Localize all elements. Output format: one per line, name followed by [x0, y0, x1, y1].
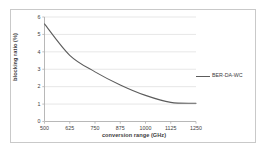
x-tick-label-500: 500 — [34, 125, 56, 131]
chart-figure: blocking ratio (%) conversion range (GHz… — [0, 0, 268, 154]
y-tick-label-2: 2 — [31, 83, 41, 89]
y-axis-title: blocking ratio (%) — [12, 12, 18, 102]
y-tick-label-5: 5 — [31, 31, 41, 37]
legend-label-ber-da-wc: BER-DA-WC — [212, 72, 243, 78]
series-line-BER-DA-WC — [45, 24, 197, 103]
gridlines — [45, 17, 197, 104]
legend-line-swatch — [196, 76, 210, 77]
y-axis-title-wrap: blocking ratio (%) — [12, 12, 22, 102]
data-series-group — [45, 24, 197, 103]
y-tick-label-6: 6 — [31, 14, 41, 20]
y-tick-label-1: 1 — [31, 101, 41, 107]
x-tick-label-1125: 1125 — [160, 125, 182, 131]
chart-legend: BER-DA-WC — [196, 70, 254, 83]
x-tick-label-875: 875 — [109, 125, 131, 131]
x-tick-label-625: 625 — [59, 125, 81, 131]
y-tick-label-3: 3 — [31, 66, 41, 72]
x-tick-label-1000: 1000 — [135, 125, 157, 131]
y-tick-label-0: 0 — [31, 118, 41, 124]
x-axis-title: conversion range (GHz) — [0, 132, 268, 138]
y-tick-label-4: 4 — [31, 49, 41, 55]
x-tick-label-1250: 1250 — [185, 125, 207, 131]
x-tick-label-750: 750 — [84, 125, 106, 131]
